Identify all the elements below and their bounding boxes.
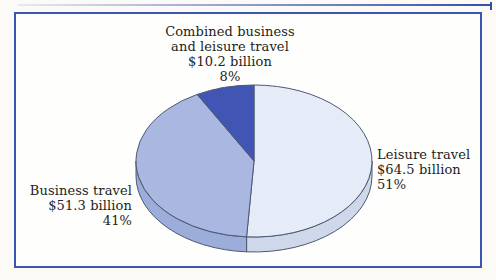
label-combined-percent: 8% bbox=[152, 69, 308, 84]
label-leisure-name: Leisure travel bbox=[377, 147, 482, 162]
label-business-travel: Business travel $51.3 billion 41% bbox=[20, 183, 132, 228]
label-combined-name-line2: and leisure travel bbox=[152, 39, 308, 54]
label-business-name: Business travel bbox=[20, 183, 132, 198]
label-leisure-travel: Leisure travel $64.5 billion 51% bbox=[377, 147, 482, 192]
label-business-percent: 41% bbox=[20, 213, 132, 228]
figure-page: Combined business and leisure travel $10… bbox=[0, 0, 496, 280]
label-business-value: $51.3 billion bbox=[20, 198, 132, 213]
label-combined-value: $10.2 billion bbox=[152, 54, 308, 69]
label-leisure-value: $64.5 billion bbox=[377, 162, 482, 177]
label-combined-name-line1: Combined business bbox=[152, 24, 308, 39]
label-combined-travel: Combined business and leisure travel $10… bbox=[152, 24, 308, 84]
label-leisure-percent: 51% bbox=[377, 177, 482, 192]
